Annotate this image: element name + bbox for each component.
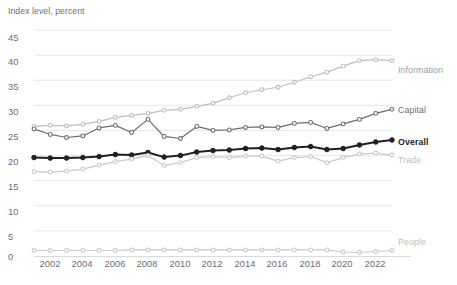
data-point [227,148,232,153]
data-point [211,148,216,153]
data-point [325,70,329,74]
data-point [195,248,199,252]
data-point [179,107,183,111]
data-point [97,120,101,124]
data-point [309,75,313,79]
data-point [32,155,37,160]
data-point [276,248,280,252]
data-point [325,161,329,165]
data-point [130,248,134,252]
data-point [113,249,117,253]
data-point [97,154,102,159]
data-point [65,136,69,140]
data-point [358,59,362,63]
y-axis-tick: 0 [8,252,34,261]
data-point [48,170,52,174]
series-label-overall: Overall [398,138,429,147]
data-point [195,156,199,160]
series-label-people: People [398,238,426,247]
y-axis-tick: 25 [8,132,34,141]
data-point [130,113,134,117]
x-axis-tick: 2014 [235,259,256,268]
plot-area [34,30,392,256]
data-point [244,91,248,95]
data-point [358,152,362,156]
data-point [374,151,378,155]
data-point [325,127,329,131]
x-axis-tick: 2008 [137,259,158,268]
data-point [308,144,313,149]
data-point [32,127,36,131]
data-point [65,249,69,253]
data-point [341,156,345,160]
data-point [32,249,36,253]
data-point [309,155,313,159]
data-point [244,248,248,252]
data-point [113,124,117,128]
data-point [195,125,199,129]
x-axis-tick: 2006 [105,259,126,268]
data-point [162,164,166,168]
chart-container: Index level, percent 45 40 35 30 25 20 1… [0,0,457,285]
x-axis-tick: 2022 [365,259,386,268]
data-point [260,88,264,92]
data-point [358,118,362,122]
y-axis-tick: 15 [8,182,34,191]
data-point [81,123,85,127]
data-point [260,125,264,129]
data-point [357,143,362,148]
data-point [146,118,150,122]
data-point [244,154,248,158]
series-label-capital: Capital [398,106,426,115]
data-point [260,146,265,151]
y-axis-tick: 30 [8,107,34,116]
data-point [211,129,215,133]
y-axis-title: Index level, percent [8,6,85,16]
data-point [48,249,52,253]
data-point [227,128,231,132]
data-point [325,248,329,252]
axis-baseline [34,256,411,257]
data-point [162,155,167,160]
data-point [113,160,117,164]
data-point [292,145,297,150]
data-point [81,167,85,171]
data-point [97,249,101,253]
series-line [34,60,392,127]
data-point [178,153,183,158]
x-axis-tick: 2016 [267,259,288,268]
x-axis-tick: 2002 [40,259,61,268]
data-point [81,134,85,138]
data-point [276,85,280,89]
data-point [358,251,362,255]
data-point [276,147,281,152]
y-axis-tick: 5 [8,232,34,241]
x-axis-tick: 2004 [72,259,93,268]
data-point [374,58,378,62]
series-trade [32,151,394,174]
y-axis-tick: 40 [8,57,34,66]
data-point [341,64,345,68]
chart-svg [34,30,392,256]
data-point [97,163,101,167]
x-axis-tick: 2010 [170,259,191,268]
data-point [325,147,330,152]
data-point [48,124,52,128]
data-point [292,156,296,160]
data-point [179,248,183,252]
data-point [48,156,53,161]
data-point [390,138,395,143]
data-point [390,59,394,63]
y-axis-tick: 20 [8,157,34,166]
data-point [146,111,150,115]
data-point [260,248,264,252]
data-point [113,152,118,157]
data-point [243,146,248,151]
data-point [81,249,85,253]
data-point [64,156,69,161]
y-axis-tick: 45 [8,33,34,42]
data-point [65,124,69,128]
data-point [211,248,215,252]
data-point [179,161,183,165]
data-point [374,111,378,115]
